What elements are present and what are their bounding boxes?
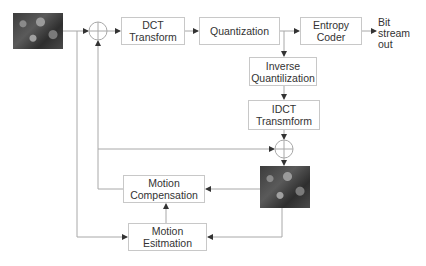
motion-compensation-block: Motion Compensation	[123, 175, 205, 203]
inverse-quantization-block: Inverse Quantilization	[249, 57, 317, 86]
input-frame-image	[13, 13, 63, 49]
dct-transform-block: DCT Transform	[121, 17, 185, 45]
motion-estimation-block: Motion Esitmation	[128, 223, 207, 251]
entropy-coder-block: Entropy Coder	[300, 17, 362, 45]
bitstream-out-label: Bit stream out	[378, 17, 410, 50]
quantization-block: Quantization	[199, 17, 280, 45]
reconstructed-frame-image	[260, 166, 310, 208]
idct-transform-block: IDCT Transmform	[248, 100, 320, 130]
